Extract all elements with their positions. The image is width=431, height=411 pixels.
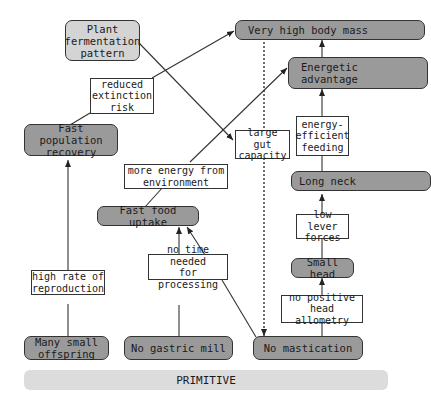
- node-very-high-body-mass: Very high body mass: [235, 20, 425, 40]
- label-high-rate-of-reproduction: high rate of reproduction: [31, 270, 105, 295]
- node-fast-food-uptake: Fast food uptake: [97, 206, 199, 226]
- node-energetic-advantage: Energetic advantage: [288, 57, 428, 89]
- label-no-time-needed-for-processing: no time needed for processing: [148, 254, 228, 280]
- baseline-primitive: PRIMITIVE: [24, 370, 388, 390]
- label-more-energy-from-environment: more energy from environment: [124, 164, 228, 189]
- label-no-positive-head-allometry: no positive head allometry: [281, 295, 363, 323]
- label-large-gut-capacity: large gut capacity: [235, 130, 290, 159]
- node-no-mastication: No mastication: [253, 336, 363, 360]
- node-no-gastric-mill: No gastric mill: [124, 336, 233, 360]
- label-reduced-extinction-risk: reduced extinction risk: [90, 78, 154, 114]
- node-small-head: Small head: [291, 258, 354, 278]
- node-fast-population-recovery: Fast population recovery: [24, 124, 118, 156]
- node-long-neck: Long neck: [291, 171, 431, 191]
- label-energy-efficient-feeding: energy- efficient feeding: [296, 116, 349, 156]
- label-low-lever-forces: low lever forces: [296, 214, 349, 239]
- node-plant-fermentation-pattern: Plant fermentation pattern: [65, 20, 140, 61]
- node-many-small-offspring: Many small offspring: [24, 336, 109, 360]
